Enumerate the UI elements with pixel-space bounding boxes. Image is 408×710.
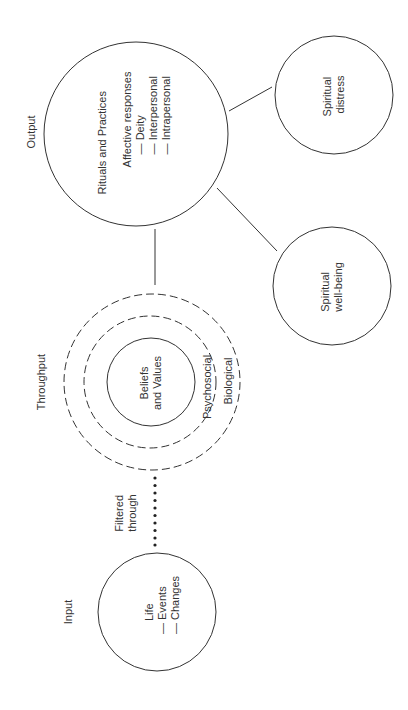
- input-events: — Events: [156, 576, 169, 634]
- distress-label: Spiritual distress: [321, 76, 347, 117]
- input-changes: — Changes: [169, 576, 182, 634]
- distress-line2: distress: [334, 76, 347, 117]
- beliefs-values-label: Beliefs and Values: [138, 356, 164, 410]
- filtered-through-dotted-line: [153, 476, 156, 546]
- stage-label-output: Output: [25, 115, 38, 148]
- psychosocial-label: Psychosocial: [201, 355, 214, 419]
- input-circle-text: Life — Events — Changes: [143, 576, 182, 634]
- affective-deity: — Deity: [134, 72, 147, 195]
- stage-label-input: Input: [62, 600, 75, 624]
- biological-label: Biological: [222, 357, 235, 404]
- affective-intrapersonal: — Intrapersonal: [160, 72, 173, 195]
- distress-line1: Spiritual: [321, 76, 334, 117]
- affective-responses: Affective responses: [121, 72, 134, 195]
- wellbeing-line2: well-being: [332, 262, 345, 312]
- output-wellbeing-line: [217, 188, 277, 251]
- filtered-through-label: Filtered through: [113, 494, 139, 531]
- wellbeing-label: Spiritual well-being: [319, 262, 345, 312]
- beliefs-line2: and Values: [151, 356, 164, 410]
- beliefs-line1: Beliefs: [138, 356, 151, 410]
- output-circle-text: Rituals and Practices Affective response…: [96, 72, 173, 195]
- stage-label-throughput: Throughput: [35, 354, 48, 410]
- affective-interpersonal: — Interpersonal: [147, 72, 160, 195]
- output-distress-line: [229, 87, 272, 111]
- input-life: Life: [143, 576, 156, 634]
- filtered-line1: Filtered: [113, 494, 126, 531]
- wellbeing-line1: Spiritual: [319, 262, 332, 312]
- rituals-practices: Rituals and Practices: [96, 72, 109, 195]
- spiritual-model-diagram: Input Throughput Output Life — Events — …: [0, 0, 408, 710]
- filtered-line2: through: [126, 494, 139, 531]
